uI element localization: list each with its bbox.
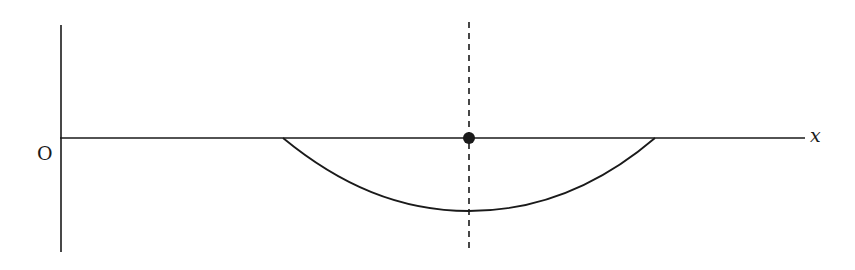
x-axis-label: x [810,124,821,146]
origin-label: O [37,142,53,164]
center-point [463,132,475,144]
diagram-canvas: O x [0,0,855,270]
